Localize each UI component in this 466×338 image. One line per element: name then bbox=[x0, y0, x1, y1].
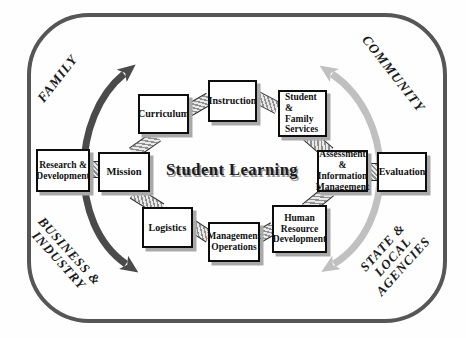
box-evaluation: Evaluation bbox=[377, 152, 427, 192]
box-instruction: Instruction bbox=[208, 80, 257, 122]
diagram-canvas: FAMILY COMMUNITY BUSINESS & INDUSTRY STA… bbox=[0, 0, 466, 338]
box-assessment-information-management: Assessment & Information Management bbox=[317, 150, 368, 192]
box-logistics: Logistics bbox=[142, 207, 193, 248]
box-human-resource-development: Human Resource Development bbox=[272, 205, 327, 253]
box-research-development: Research & Development bbox=[36, 149, 90, 192]
box-management-operations: Management Operations bbox=[208, 222, 260, 262]
box-mission: Mission bbox=[98, 152, 150, 192]
box-student-family-services: Student & Family Services bbox=[278, 90, 327, 137]
center-title: Student Learning bbox=[136, 160, 328, 180]
box-curriculum: Curriculum bbox=[138, 94, 189, 134]
